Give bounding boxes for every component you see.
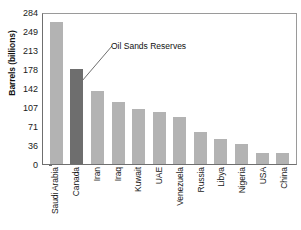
x-label-slot: Nigeria <box>232 167 253 230</box>
bar <box>132 109 145 164</box>
x-label-slot: Venezuela <box>170 167 191 230</box>
bar <box>70 69 83 164</box>
bar-slot <box>190 14 211 164</box>
x-tick-label: Russia <box>196 167 206 192</box>
x-label-slot: Iran <box>87 167 108 230</box>
bar <box>214 139 227 164</box>
x-label-slot: Russia <box>190 167 211 230</box>
y-tick-label: 284 <box>12 8 38 18</box>
y-tick-label: 0 <box>12 160 38 170</box>
bar <box>50 22 63 164</box>
x-label-slot: Libya <box>211 167 232 230</box>
bar-slot <box>231 14 252 164</box>
bar-slot <box>211 14 232 164</box>
bar <box>235 144 248 164</box>
oil-sands-annotation: Oil Sands Reserves <box>111 41 186 51</box>
y-tick-label: 107 <box>12 103 38 113</box>
x-tick-label: Saudi Arabia <box>50 167 60 214</box>
bar-slot <box>252 14 273 164</box>
bar <box>91 91 104 164</box>
y-tick-label: 178 <box>12 65 38 75</box>
bar-slot <box>272 14 293 164</box>
bar <box>256 153 269 164</box>
bar <box>153 112 166 164</box>
x-tick-label: Libya <box>216 167 226 187</box>
x-label-slot: Canada <box>66 167 87 230</box>
bar <box>276 153 289 164</box>
x-label-slot: Saudi Arabia <box>45 167 66 230</box>
bar-slot <box>108 14 129 164</box>
bar <box>194 132 207 164</box>
bar-slot <box>67 14 88 164</box>
plot-area <box>42 13 297 165</box>
x-tick-label: Nigeria <box>237 167 247 193</box>
x-tick-label: Canada <box>71 167 81 196</box>
x-label-slot: Kuwait <box>128 167 149 230</box>
x-tick-label: China <box>279 167 289 189</box>
bar-series <box>43 14 296 164</box>
x-label-slot: UAE <box>149 167 170 230</box>
x-tick-label: Iraq <box>113 167 123 181</box>
x-label-slot: USA <box>253 167 274 230</box>
x-tick-label: Iran <box>92 167 102 181</box>
x-tick-label: USA <box>258 167 268 184</box>
bar-slot <box>46 14 67 164</box>
bar <box>173 117 186 164</box>
bar-slot <box>169 14 190 164</box>
bar-slot <box>87 14 108 164</box>
y-tick-label: 71 <box>12 122 38 132</box>
bar-slot <box>149 14 170 164</box>
y-tick-label: 213 <box>12 46 38 56</box>
y-axis-ticks: 03671107142178213249284 <box>10 0 38 230</box>
y-tick-label: 249 <box>12 27 38 37</box>
bar-slot <box>128 14 149 164</box>
x-axis-labels: Saudi ArabiaCanadaIranIraqKuwaitUAEVenez… <box>42 167 297 230</box>
x-tick-label: Venezuela <box>175 167 185 206</box>
x-label-slot: Iraq <box>107 167 128 230</box>
x-tick-label: Kuwait <box>133 167 143 192</box>
x-tick-label: UAE <box>154 167 164 184</box>
y-tick-label: 36 <box>12 141 38 151</box>
bar-chart: Barrels (billions) 036711071421782132492… <box>0 0 301 230</box>
x-label-slot: China <box>273 167 294 230</box>
bar <box>112 102 125 164</box>
y-tick-label: 142 <box>12 84 38 94</box>
y-tick-mark <box>49 165 52 166</box>
